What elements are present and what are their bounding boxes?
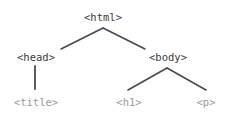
edge-body-h1: [128, 68, 167, 90]
edge-body-p: [167, 68, 206, 90]
tree-node-body: <body>: [149, 51, 187, 63]
tree-node-head: <head>: [17, 51, 55, 63]
tree-node-p: <p>: [197, 96, 216, 108]
tree-node-title: <title>: [14, 96, 58, 108]
edge-html-body: [103, 28, 145, 49]
tree-node-h1: <h1>: [116, 96, 141, 108]
dom-tree-diagram: <html> <head> <body> <title> <h1> <p>: [0, 0, 226, 117]
edge-html-head: [61, 28, 103, 49]
tree-node-html: <html>: [84, 11, 122, 23]
